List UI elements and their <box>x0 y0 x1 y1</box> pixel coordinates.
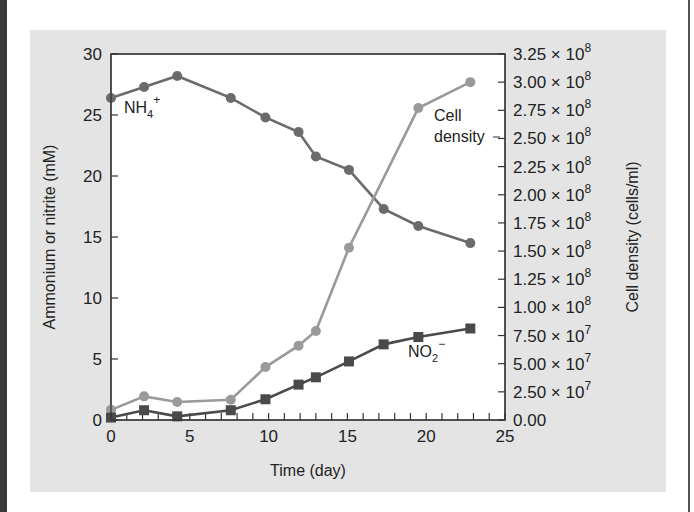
data-point <box>226 395 236 405</box>
data-point <box>311 372 321 382</box>
y2-tick-label: 2.25 × 108 <box>513 154 591 177</box>
x-tick-label: 20 <box>417 427 436 446</box>
y2-tick-label: 0.00 <box>513 411 546 430</box>
data-point <box>260 362 270 372</box>
x-tick-label: 25 <box>496 427 515 446</box>
y2-tick-label: 1.25 × 108 <box>513 266 591 289</box>
y-tick-label: 0 <box>93 411 102 430</box>
data-point <box>260 112 270 122</box>
data-point <box>379 339 389 349</box>
y-axis-right: 0.002.50 × 1075.00 × 1077.50 × 1071.00 ×… <box>498 41 591 430</box>
data-point <box>226 405 236 415</box>
data-point <box>413 332 423 342</box>
data-point <box>379 204 389 214</box>
y-tick-label: 5 <box>93 350 102 369</box>
y2-tick-label: 3.25 × 108 <box>513 41 591 64</box>
y-tick-label: 25 <box>83 106 102 125</box>
y2-tick-label: 2.50 × 108 <box>513 125 591 148</box>
data-point <box>294 127 304 137</box>
y-axis-left-title: Ammonium or nitrite (mM) <box>41 145 58 330</box>
x-axis-title: Time (day) <box>270 462 346 479</box>
x-tick-label: 5 <box>185 427 194 446</box>
data-point <box>294 341 304 351</box>
data-point <box>465 77 475 87</box>
data-point <box>413 103 423 113</box>
data-point <box>465 324 475 334</box>
y-tick-label: 30 <box>83 45 102 64</box>
x-tick-label: 0 <box>106 427 115 446</box>
data-point <box>226 93 236 103</box>
data-point <box>139 405 149 415</box>
data-point <box>139 391 149 401</box>
cell-density-label-line1: Cell <box>434 107 462 124</box>
data-point <box>465 238 475 248</box>
data-point <box>311 326 321 336</box>
x-tick-label: 15 <box>338 427 357 446</box>
chart: 0510152025 051015202530 0.002.50 × 1075.… <box>0 0 694 512</box>
data-point <box>294 380 304 390</box>
y-tick-label: 15 <box>83 228 102 247</box>
y2-tick-label: 2.00 × 108 <box>513 182 591 205</box>
data-point <box>344 165 354 175</box>
y2-tick-label: 2.75 × 108 <box>513 97 591 120</box>
data-point <box>413 221 423 231</box>
cell-density-label-line2: density <box>434 128 485 145</box>
data-point <box>311 151 321 161</box>
y2-tick-label: 2.50 × 107 <box>513 379 591 402</box>
y2-tick-label: 1.75 × 108 <box>513 210 591 233</box>
y-axis-right-title: Cell density (cells/ml) <box>624 161 641 312</box>
data-point <box>172 71 182 81</box>
y-tick-label: 20 <box>83 167 102 186</box>
x-tick-label: 10 <box>259 427 278 446</box>
data-point <box>172 397 182 407</box>
y2-tick-label: 5.00 × 107 <box>513 351 591 374</box>
data-point <box>344 356 354 366</box>
y-tick-label: 10 <box>83 289 102 308</box>
y2-tick-label: 1.50 × 108 <box>513 238 591 261</box>
y2-tick-label: 3.00 × 108 <box>513 69 591 92</box>
y2-tick-label: 7.50 × 107 <box>513 323 591 346</box>
data-point <box>139 82 149 92</box>
data-point <box>344 243 354 253</box>
y2-tick-label: 1.00 × 108 <box>513 294 591 317</box>
data-point <box>260 394 270 404</box>
